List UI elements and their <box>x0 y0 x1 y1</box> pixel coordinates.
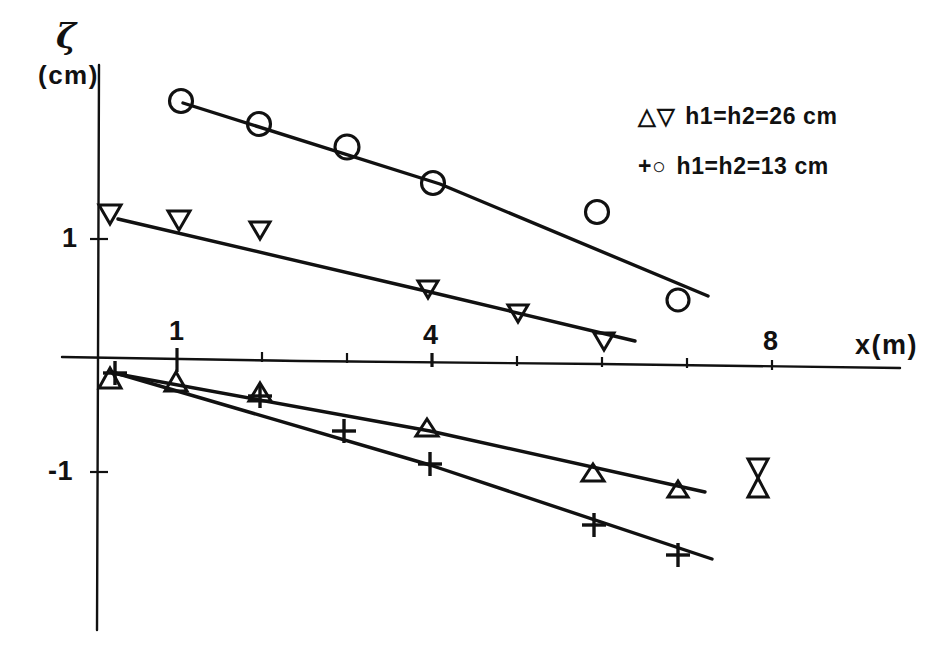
data-point-down-triangle <box>250 222 270 239</box>
x-axis-title: x(m) <box>855 330 918 361</box>
series-circle-markers <box>170 90 690 312</box>
series-plus-group <box>103 361 712 567</box>
data-point-circle <box>667 289 689 311</box>
legend-label-26cm: h1=h2=26 cm <box>685 103 837 130</box>
x-tick-label-4: 4 <box>423 320 439 351</box>
x-tick-label-8: 8 <box>763 326 779 357</box>
data-point-circle <box>170 90 193 113</box>
series-down-triangle-fit-line <box>118 219 635 341</box>
data-point-up-triangle <box>99 368 121 388</box>
x-tick-label-1: 1 <box>169 316 185 347</box>
data-point-down-triangle <box>99 205 121 224</box>
legend-row-13cm: +○ h1=h2=13 cm <box>638 153 829 180</box>
y-axis-unit-label: (cm) <box>38 60 99 91</box>
y-axis-line <box>97 65 99 630</box>
legend-row-26cm: △▽ h1=h2=26 cm <box>638 103 838 130</box>
data-point-plus <box>103 361 127 385</box>
chart-canvas <box>0 0 944 669</box>
y-tick-label-negative-1: -1 <box>48 456 73 487</box>
data-point-circle <box>586 201 609 224</box>
series-circle-group <box>170 90 709 312</box>
series-up-triangle-group <box>99 368 705 497</box>
data-point-plus <box>418 452 442 476</box>
legend-label-13cm: h1=h2=13 cm <box>677 153 829 180</box>
series-plus-fit-line <box>112 372 712 559</box>
chart-figure: ζ (cm) 1 -1 1 4 8 x(m) △▽ h1=h2=26 cm +○… <box>0 0 944 669</box>
data-point-down-triangle <box>168 211 190 230</box>
series-circle-fit-line <box>183 103 708 296</box>
data-point-plus <box>332 419 356 443</box>
data-point-down-triangle <box>594 333 614 350</box>
series-plus-markers <box>103 361 690 567</box>
error-bar-marker <box>748 459 768 497</box>
legend-symbols-triangles: △▽ <box>638 103 675 130</box>
y-tick-label-positive-1: 1 <box>62 223 78 254</box>
series-up-triangle-fit-line <box>112 373 705 492</box>
y-axis-symbol-label: ζ <box>56 16 77 56</box>
x-axis-line <box>62 357 900 368</box>
legend-symbols-plus-circle: +○ <box>638 153 667 180</box>
data-point-plus <box>248 384 272 408</box>
